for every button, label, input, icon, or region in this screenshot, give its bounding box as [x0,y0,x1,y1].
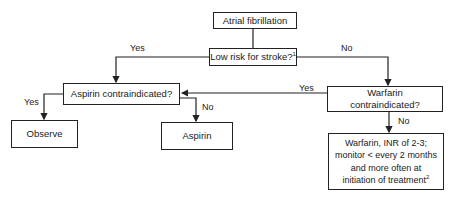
node-text-line1: Warfarin [367,87,403,99]
node-observe: Observe [11,120,78,148]
footnote-marker: 2 [426,174,429,180]
node-text-line2: monitor < every 2 months [335,149,437,162]
node-text: Observe [27,128,63,140]
node-warfarin-treatment: Warfarin, INR of 2-3; monitor < every 2 … [328,133,444,190]
node-text: Aspirin [182,130,211,142]
node-text: Aspirin contraindicated? [71,88,172,100]
edge-label-warfarin-contra-yes: Yes [299,83,314,93]
footnote-marker: 1 [293,51,296,57]
edge-label-aspirin-contra-no: No [202,102,214,112]
node-warfarin-contraindicated: Warfarin contraindicated? [327,86,443,112]
edge-label-aspirin-contra-yes: Yes [24,97,39,107]
edge-label-low-risk-yes: Yes [130,43,145,53]
node-text-line1: Warfarin, INR of 2-3; [345,137,427,150]
edge-label-low-risk-no: No [341,43,353,53]
node-aspirin: Aspirin [161,122,233,150]
node-text-line4: initiation of treatment2 [343,174,430,187]
flowchart: Atrial fibrillation Low risk for stroke?… [0,0,455,201]
node-text: Low risk for stroke?1 [210,51,296,63]
node-text-line3: and more often at [351,162,422,175]
edge-label-warfarin-contra-no: No [398,116,410,126]
node-aspirin-contraindicated: Aspirin contraindicated? [63,83,180,105]
node-text: Atrial fibrillation [223,15,287,27]
node-low-risk-for-stroke: Low risk for stroke?1 [209,48,297,66]
node-atrial-fibrillation: Atrial fibrillation [213,12,297,29]
node-text-line2: contraindicated? [350,99,420,111]
